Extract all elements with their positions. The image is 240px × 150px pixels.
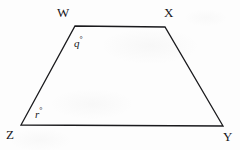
trapezoid-shape-svg <box>0 0 240 150</box>
trapezoid-outline <box>21 26 223 126</box>
vertex-label-x: X <box>164 6 173 19</box>
angle-label-q: q° <box>74 36 83 49</box>
trapezoid-figure: W X Y Z q° r° <box>0 0 240 150</box>
vertex-label-z: Z <box>6 128 14 141</box>
vertex-label-y: Y <box>223 130 232 143</box>
vertex-label-w: W <box>57 6 69 19</box>
angle-label-r: r° <box>35 107 42 120</box>
degree-symbol-r: ° <box>39 106 42 115</box>
degree-symbol-q: ° <box>80 35 83 44</box>
